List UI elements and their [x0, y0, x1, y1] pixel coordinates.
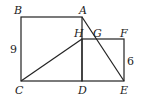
- label-h: H: [73, 27, 84, 40]
- segment-ae: [82, 17, 124, 81]
- label-d: D: [77, 84, 87, 97]
- measure-bc: 9: [10, 43, 17, 56]
- label-a: A: [78, 4, 87, 17]
- segment-ch: [21, 39, 82, 81]
- label-c: C: [15, 84, 24, 97]
- square-abcd: [21, 17, 82, 81]
- label-b: B: [13, 4, 22, 17]
- diagram-canvas: B A H G F C D E 9 6: [0, 0, 141, 100]
- label-e: E: [119, 84, 128, 97]
- label-f: F: [119, 27, 128, 40]
- square-hdef: [82, 39, 124, 81]
- label-g: G: [93, 27, 102, 40]
- measure-ef: 6: [127, 55, 134, 68]
- geometry-diagram: B A H G F C D E 9 6: [0, 0, 141, 100]
